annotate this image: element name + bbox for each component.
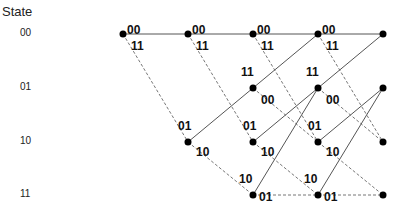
edge-output-label: 00 [127,24,140,36]
state-node [120,31,127,38]
edge-output-label: 01 [308,120,321,132]
state-node [250,85,257,92]
edge-output-label: 00 [257,24,270,36]
state-node [315,192,322,199]
state-label-01: 01 [20,82,31,92]
state-node [250,192,257,199]
edge-output-label: 01 [324,191,337,203]
transition-edge [188,88,253,142]
state-node [250,31,257,38]
edge-output-label: 11 [131,40,144,52]
edge-output-label: 10 [261,146,274,158]
edge-output-label: 11 [196,40,209,52]
state-node [315,139,322,146]
state-label-10: 10 [20,136,31,146]
state-node [380,192,387,199]
edge-output-label: 11 [261,40,274,52]
state-node [315,85,322,92]
state-node [185,31,192,38]
state-node [315,31,322,38]
state-node [380,139,387,146]
edge-output-label: 10 [326,146,339,158]
edge-output-label: 11 [326,40,339,52]
trellis-diagram: State 0001101100110011011000111100011010… [0,0,404,212]
state-node [185,139,192,146]
edge-output-label: 00 [326,94,339,106]
state-node [250,139,257,146]
edge-output-label: 01 [243,120,256,132]
edge-output-label: 11 [241,66,254,78]
edge-output-label: 01 [259,191,272,203]
edge-output-label: 01 [178,120,191,132]
edge-output-label: 00 [322,24,335,36]
state-node [380,85,387,92]
edge-output-label: 10 [239,173,252,185]
edge-output-label: 10 [304,173,317,185]
edge-output-label: 10 [196,146,209,158]
edge-output-label: 00 [192,24,205,36]
edge-output-label: 11 [306,66,319,78]
state-node [380,31,387,38]
state-label-11: 11 [20,189,30,199]
state-label-00: 00 [20,28,31,38]
edge-output-label: 00 [261,94,274,106]
